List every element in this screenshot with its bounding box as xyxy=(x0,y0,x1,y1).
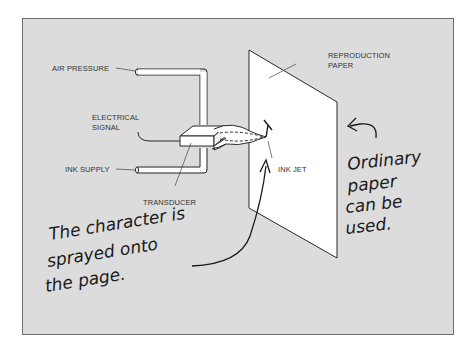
label-ink-supply: INK SUPPLY xyxy=(65,165,110,174)
inkjet-diagram: AIR PRESSURE ELECTRICAL SIGNAL INK SUPPL… xyxy=(0,0,471,356)
label-air-pressure: AIR PRESSURE xyxy=(52,64,109,73)
label-ink-jet: INK JET xyxy=(278,165,307,174)
label-reproduction-paper-1: REPRODUCTION xyxy=(328,51,390,60)
label-electrical-signal-1: ELECTRICAL xyxy=(92,113,139,122)
label-electrical-signal-2: SIGNAL xyxy=(92,123,120,132)
label-reproduction-paper-2: PAPER xyxy=(328,61,354,70)
